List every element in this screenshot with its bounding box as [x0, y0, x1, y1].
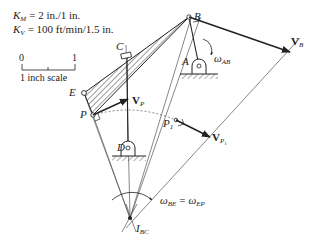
vector-VP1 — [176, 120, 210, 137]
label-B: B — [194, 10, 201, 22]
km-line: KM= 2 in./1 in. — [12, 9, 81, 23]
label-omega-be-ep: ωBE=ωEP — [160, 194, 206, 208]
label-VP: VP — [132, 94, 145, 108]
scale-caption: 1 inch scale — [20, 72, 68, 83]
label-E: E — [68, 86, 76, 98]
scale-bar — [22, 64, 75, 70]
omega-be-arrow — [112, 192, 152, 200]
label-omega-ab: ωAB — [214, 52, 231, 66]
label-VP1: VP1 — [212, 131, 227, 146]
label-D: D — [116, 141, 125, 153]
vector-VB — [189, 17, 290, 52]
scale-zero: 0 — [19, 52, 24, 63]
label-P1: P1 — [162, 117, 173, 131]
label-P: P — [79, 108, 87, 120]
label-A: A — [181, 55, 189, 67]
label-C: C — [116, 40, 124, 52]
mechanism-diagram: KM= 2 in./1 in. KV= 100 ft/min/1.5 in. 0… — [0, 0, 314, 242]
omega-ab-arrow — [203, 39, 212, 55]
joint-E — [82, 91, 87, 96]
scale-one: 1 — [72, 52, 77, 63]
slider-C — [121, 52, 132, 59]
instant-center-IBC — [128, 216, 132, 220]
kv-line: KV= 100 ft/min/1.5 in. — [12, 23, 114, 37]
label-IBC: IBC — [135, 222, 149, 236]
label-VB: VB — [291, 35, 304, 49]
